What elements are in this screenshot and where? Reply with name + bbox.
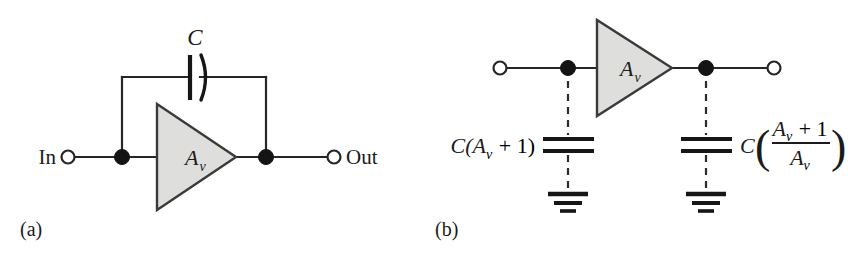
terminal-out-b: [768, 62, 781, 75]
circuit-figure-canvas: C Av In Out (a): [0, 0, 855, 263]
cap-right-lead-b: C: [740, 133, 755, 158]
cap-right-den-sub-b: v: [804, 158, 811, 173]
cap-right-numerator-b: Av + 1: [770, 116, 827, 144]
cap-right-num-tail-b: + 1: [793, 116, 827, 141]
terminal-in-a: [62, 151, 75, 164]
amp-gain-subscript-a: v: [199, 159, 206, 174]
amp-gain-letter-a: A: [183, 145, 199, 170]
capacitor-output-b: [681, 139, 732, 151]
ground-symbol-left-b: [548, 194, 588, 211]
capacitor-input-b: [543, 139, 594, 151]
cap-right-denominator-b: Av: [788, 145, 810, 173]
junction-dot-input-a: [115, 150, 130, 165]
figure-root: C Av In Out (a): [0, 0, 855, 263]
cap-right-num-letter-b: A: [770, 116, 786, 141]
cap-right-open-paren-b: (: [755, 121, 770, 172]
cap-right-num-sub-b: v: [786, 129, 793, 144]
panel-a: C Av In Out (a): [20, 25, 378, 241]
cap-left-sub-b: v: [486, 147, 493, 162]
cap-right-den-letter-b: A: [788, 145, 804, 170]
capacitance-label-input-b: C(Av + 1): [451, 133, 535, 162]
ground-symbol-right-b: [686, 194, 726, 211]
terminal-in-b: [494, 62, 507, 75]
amp-gain-letter-b: A: [618, 56, 634, 81]
cap-left-lead-b: C(A: [451, 133, 487, 158]
capacitor-label-a: C: [187, 25, 203, 50]
caption-b: (b): [435, 218, 458, 241]
amp-gain-subscript-b: v: [634, 70, 641, 85]
amplifier-triangle-b: [597, 20, 672, 116]
junction-dot-input-b: [561, 61, 576, 76]
port-label-in-a: In: [39, 145, 57, 169]
capacitance-label-output-b: C ( Av + 1 Av ): [740, 116, 846, 173]
cap-left-tail-b: + 1): [493, 133, 535, 158]
port-label-out-a: Out: [346, 145, 378, 169]
caption-a: (a): [20, 218, 42, 241]
terminal-out-a: [328, 151, 341, 164]
cap-right-close-paren-b: ): [831, 121, 846, 172]
panel-b: Av C(Av + 1) C ( Av + 1 Av ) (b): [435, 20, 846, 241]
junction-dot-output-a: [259, 150, 274, 165]
junction-dot-output-b: [699, 61, 714, 76]
